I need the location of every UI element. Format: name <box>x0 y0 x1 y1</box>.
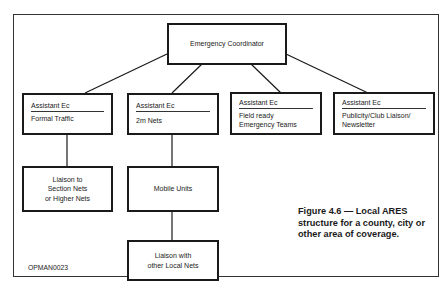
emergency-coordinator-box: Emergency Coordinator <box>167 23 287 65</box>
assistant-ec-publicity-box: Assistant Ec Publicity/Club Liaison/ New… <box>333 92 435 135</box>
assistant-ec-2m-nets-box: Assistant Ec 2m Nets <box>127 93 219 135</box>
assistant-title: Assistant Ec <box>136 101 210 112</box>
liaison-section-label: Liaison to Section Nets or Higher Nets <box>45 175 90 204</box>
figure-caption: Figure 4.6 — Local ARES structure for a … <box>298 206 445 241</box>
label-line: other Local Nets <box>148 261 199 271</box>
label-line: Liaison to <box>45 175 90 185</box>
assistant-title: Assistant Ec <box>239 98 313 109</box>
label-line: or Higher Nets <box>45 194 90 204</box>
liaison-section-nets-box: Liaison to Section Nets or Higher Nets <box>22 166 113 212</box>
role-line: Field ready <box>239 111 313 121</box>
assistant-title: Assistant Ec <box>342 98 426 109</box>
role-line: Newsletter <box>342 120 426 130</box>
liaison-local-nets-box: Liaison with other Local Nets <box>127 240 219 281</box>
caption-line: area of coverage. <box>324 229 400 239</box>
assistant-role: Formal Traffic <box>31 114 104 124</box>
mobile-units-label: Mobile Units <box>154 184 193 194</box>
figure-code: OPMAN0023 <box>28 264 68 271</box>
role-line: Formal Traffic <box>31 114 104 124</box>
label-line: Section Nets <box>45 184 90 194</box>
role-line: Publicity/Club Liaison/ <box>342 111 426 121</box>
assistant-role: Publicity/Club Liaison/ Newsletter <box>342 111 426 130</box>
assistant-title: Assistant Ec <box>31 101 104 112</box>
assistant-ec-field-teams-box: Assistant Ec Field ready Emergency Teams <box>230 92 322 135</box>
label-line: Liaison with <box>148 251 199 261</box>
mobile-units-box: Mobile Units <box>127 166 219 212</box>
assistant-role: Field ready Emergency Teams <box>239 111 313 130</box>
assistant-ec-formal-traffic-box: Assistant Ec Formal Traffic <box>22 93 113 135</box>
liaison-local-label: Liaison with other Local Nets <box>148 251 199 270</box>
emergency-coordinator-label: Emergency Coordinator <box>190 39 264 49</box>
assistant-role: 2m Nets <box>136 116 210 126</box>
role-line: 2m Nets <box>136 116 210 126</box>
caption-line: Figure 4.6 — Local <box>298 206 380 216</box>
role-line: Emergency Teams <box>239 120 313 130</box>
